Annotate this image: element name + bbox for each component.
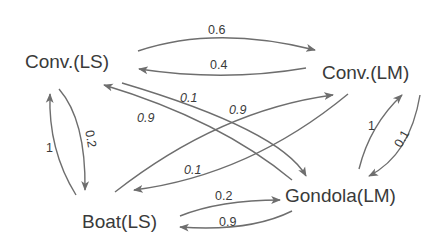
node-conv-ls: Conv.(LS)	[25, 51, 109, 72]
edge-boat-ls-to-conv-lm	[115, 95, 333, 192]
edge-label-conv-lm-to-boat-ls: 0.1	[184, 163, 201, 177]
node-boat-ls: Boat(LS)	[82, 211, 157, 232]
edge-conv-ls-to-boat-ls	[59, 89, 85, 190]
edge-label-conv-ls-to-gondola-lm: 0.1	[180, 91, 197, 105]
edge-conv-lm-to-gondola-lm	[369, 95, 420, 176]
edge-label-boat-ls-to-conv-lm: 0.9	[229, 103, 246, 117]
edge-label-boat-ls-to-gondola-lm: 0.2	[215, 189, 232, 203]
edge-label-conv-ls-to-conv-lm: 0.6	[208, 23, 225, 37]
transition-diagram: Conv.(LS) Conv.(LM) Boat(LS) Gondola(LM)…	[0, 0, 444, 248]
node-conv-lm: Conv.(LM)	[322, 62, 409, 83]
edge-conv-ls-to-conv-lm	[138, 38, 315, 51]
node-gondola-lm: Gondola(LM)	[285, 185, 396, 206]
edge-label-gondola-lm-to-conv-lm: 1	[368, 119, 375, 133]
edge-label-gondola-lm-to-conv-ls: 0.9	[137, 111, 154, 125]
edge-label-boat-ls-to-conv-ls: 1	[46, 141, 53, 155]
edge-label-conv-lm-to-conv-ls: 0.4	[210, 58, 227, 72]
edge-label-gondola-lm-to-boat-ls: 0.9	[219, 215, 236, 229]
edge-label-conv-ls-to-boat-ls: 0.2	[82, 129, 99, 149]
edge-gondola-lm-to-conv-lm	[359, 95, 402, 169]
